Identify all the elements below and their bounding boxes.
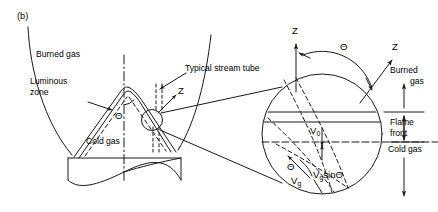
label-velocity-v0: V0 — [310, 126, 320, 137]
label-luminous-zone-line2: zone — [30, 88, 49, 97]
label-cone-theta: Θ — [115, 111, 122, 121]
label-flame-front-line1: Flame — [390, 118, 414, 127]
cold-gas-cone-left-dashed — [85, 97, 127, 156]
label-burned-gas-left: Burned gas — [36, 50, 80, 59]
cone-theta-arc — [124, 100, 134, 105]
theta-arc-top — [303, 51, 372, 88]
label-burned-gas-line1: Burned — [390, 66, 418, 75]
label-theta-bottom: Θ — [287, 162, 294, 172]
label-burned-gas-line2: gas — [410, 77, 424, 86]
label-luminous-zone-line1: Luminous — [30, 77, 67, 86]
theta-arc-arrow-left — [299, 53, 310, 58]
cold-gas-cone-right-dashed — [129, 97, 166, 151]
luminous-zone-inner-left — [79, 91, 131, 158]
label-velocity-vg-sin-theta: VgsinΘ — [313, 170, 343, 181]
label-magnified-z-normal: Z — [392, 42, 398, 52]
label-theta-top: Θ — [340, 42, 347, 52]
figure-root: (b) Burned gas Luminous zone Cold gas Θ … — [0, 0, 438, 212]
label-velocity-v0-sub: 0 — [316, 130, 320, 137]
label-cold-gas-right: Cold gas — [388, 145, 422, 154]
magnified-z-normal-axis — [360, 60, 392, 103]
label-velocity-vgsin-tail: sinΘ — [323, 169, 343, 180]
figure-canvas — [0, 0, 438, 212]
burner-tube-ellipse-arc — [124, 158, 181, 172]
luminous-zone-leader — [88, 102, 112, 110]
label-typical-stream-tube: Typical stream tube — [185, 64, 260, 73]
label-cold-gas-left: Cold gas — [86, 137, 120, 146]
panel-label: (b) — [17, 12, 28, 22]
luminous-zone-inner-right — [131, 92, 171, 152]
label-magnified-z-vertical: Z — [292, 26, 298, 36]
label-velocity-vg-sub: g — [297, 180, 301, 187]
label-flame-front-line2: front — [390, 129, 407, 138]
velocity-vg-leader — [314, 180, 322, 193]
label-velocity-vg: Vg — [291, 176, 301, 187]
label-local-z-axis: Z — [178, 86, 184, 96]
